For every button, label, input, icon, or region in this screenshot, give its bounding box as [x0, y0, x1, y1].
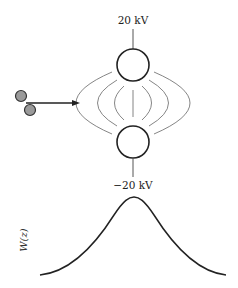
wz-axis-label: W(z)	[18, 228, 29, 251]
field-line-left-1	[115, 86, 125, 120]
field-line-right-1	[142, 86, 152, 120]
top-voltage-label: 20 kV	[118, 14, 149, 26]
top-electrode	[117, 49, 149, 81]
field-line-right-3	[154, 72, 190, 134]
stark-deflection-diagram: 20 kV −20 kV W(z)	[0, 0, 238, 288]
field-line-left-3	[76, 72, 112, 134]
bottom-voltage-label: −20 kV	[113, 179, 153, 191]
bottom-electrode	[117, 126, 149, 158]
wz-gaussian-curve	[40, 197, 226, 275]
arrow-right-icon	[26, 100, 80, 106]
